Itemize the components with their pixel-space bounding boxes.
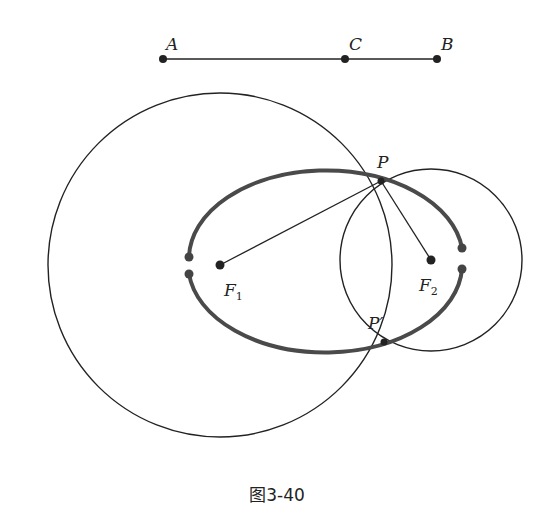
segment-pf2 [381,181,431,260]
label-b: B [440,34,454,54]
ellipse-construction-diagram: A C B F1 F2 P P′ 图3-40 [0,0,554,527]
figure-caption: 图3-40 [249,485,305,505]
label-f1: F1 [223,280,243,303]
arc-endpoint [185,253,194,262]
label-a: A [164,34,178,54]
point-p-prime [381,339,388,346]
focus-f2 [427,256,436,265]
label-p-prime: P′ [367,313,383,333]
point-a [159,55,167,63]
point-c [341,55,349,63]
label-p: P [376,152,389,172]
arc-endpoint [458,265,467,274]
label-c: C [349,34,362,54]
point-p [378,178,385,185]
point-b [433,55,441,63]
focus-f1 [216,261,225,270]
segment-pf1 [220,181,381,265]
arc-endpoint [458,244,467,253]
arc-endpoint [185,270,194,279]
label-f2: F2 [418,275,438,298]
